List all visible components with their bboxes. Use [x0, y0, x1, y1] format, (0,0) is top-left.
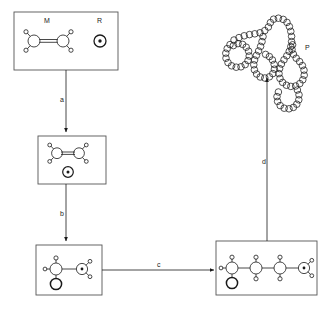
structure-polymer-coil — [223, 15, 308, 112]
structure-radical-encounter — [63, 167, 74, 178]
label-radical: R — [97, 17, 102, 25]
box-growing-chain — [216, 241, 317, 295]
label-step-a: a — [60, 96, 64, 104]
box-reactants — [14, 12, 118, 70]
structure-growing-chain — [219, 255, 314, 289]
polymerization-diagram — [0, 0, 334, 316]
label-polymer: P — [305, 44, 310, 52]
label-step-b: b — [60, 210, 64, 218]
structure-monomer-m — [24, 30, 73, 53]
box-encounter — [38, 136, 106, 184]
structure-radical-r — [94, 35, 106, 47]
label-step-d: d — [262, 158, 266, 166]
structure-monomer-encounter — [48, 143, 88, 163]
structure-initiated-adduct — [43, 256, 92, 290]
box-initiated — [36, 245, 102, 295]
label-monomer: M — [44, 17, 50, 25]
label-step-c: c — [157, 261, 161, 269]
